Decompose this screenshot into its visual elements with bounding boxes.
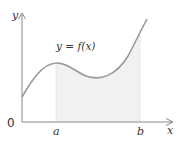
curve-label: y = f(x) <box>55 40 95 52</box>
bound-b-label: b <box>137 125 144 138</box>
y-axis-label: y <box>11 9 19 22</box>
bound-a-label: a <box>53 125 60 138</box>
origin-label: 0 <box>7 116 15 130</box>
x-axis-label: x <box>167 124 174 137</box>
area-under-curve-diagram: y x 0 a b y = f(x) <box>0 0 187 150</box>
